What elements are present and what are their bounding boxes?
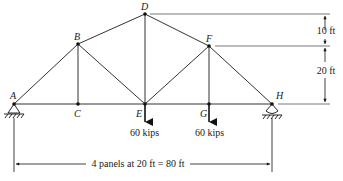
span-dimension-label: 4 panels at 20 ft = 80 ft	[91, 158, 184, 169]
joint-F	[207, 44, 211, 48]
joint-E	[143, 102, 147, 106]
member-DF	[145, 14, 209, 46]
truss-diagram: 10 ft 20 ft 60 kips 60 kips	[0, 0, 343, 181]
pin-support-icon	[4, 104, 24, 118]
member-AB	[14, 44, 78, 104]
joint-A	[12, 102, 16, 106]
member-BD	[78, 14, 145, 44]
dim-label-10ft: 10 ft	[317, 25, 336, 36]
joint-label-B: B	[74, 31, 80, 42]
roller-support-icon	[262, 104, 282, 119]
joint-label-C: C	[74, 108, 81, 119]
joint-D	[143, 12, 147, 16]
joint-B	[76, 42, 80, 46]
joint-G	[207, 102, 211, 106]
joint-H	[270, 102, 274, 106]
joint-label-E: E	[135, 108, 142, 119]
load-label-e: 60 kips	[130, 127, 159, 138]
joint-label-F: F	[205, 33, 213, 44]
truss-canvas: 10 ft 20 ft 60 kips 60 kips	[0, 0, 343, 181]
dimension-extension-lines	[150, 14, 330, 104]
load-label-g: 60 kips	[195, 127, 224, 138]
member-FH	[209, 46, 272, 104]
member-EF	[145, 46, 209, 104]
joint-label-D: D	[140, 1, 149, 12]
member-BE	[78, 44, 145, 104]
truss-nodes: ABCDEFGH	[9, 1, 284, 119]
joint-label-G: G	[200, 108, 207, 119]
joint-C	[76, 102, 80, 106]
joint-label-A: A	[9, 90, 17, 101]
dim-label-20ft: 20 ft	[317, 65, 336, 76]
truss-members	[14, 14, 272, 104]
joint-label-H: H	[275, 90, 284, 101]
